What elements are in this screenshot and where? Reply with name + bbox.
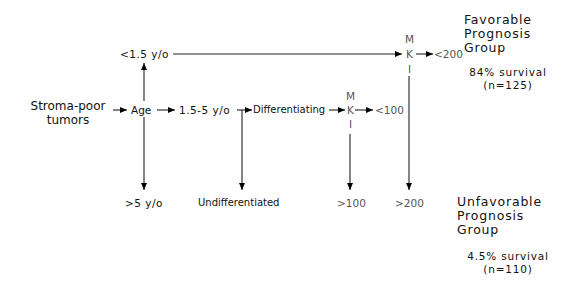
age-mid-node: 1.5-5 y/o bbox=[179, 104, 230, 116]
mki-top-k: K bbox=[406, 48, 413, 60]
mki-top-low: <200 bbox=[434, 48, 463, 60]
root-line1: Stroma-poor bbox=[27, 99, 109, 113]
unfavorable-line3: Group bbox=[457, 223, 542, 237]
mki-mid-high: >100 bbox=[337, 197, 366, 209]
age-young-node: <1.5 y/o bbox=[120, 48, 169, 60]
mki-mid-i: I bbox=[349, 118, 352, 130]
favorable-n: (n=125) bbox=[463, 79, 553, 92]
root-line2: tumors bbox=[27, 113, 109, 127]
favorable-line3: Group bbox=[464, 41, 532, 55]
differentiating-node: Differentiating bbox=[253, 104, 325, 116]
age-node: Age bbox=[131, 104, 151, 116]
unfavorable-n: (n=110) bbox=[461, 263, 555, 276]
mki-top-high: >200 bbox=[395, 197, 424, 209]
unfavorable-group-label: Unfavorable Prognosis Group bbox=[457, 195, 542, 237]
mki-mid-low: <100 bbox=[375, 104, 404, 116]
root-node: Stroma-poor tumors bbox=[27, 99, 109, 127]
unfavorable-survival: 4.5% survival (n=110) bbox=[461, 250, 555, 276]
mki-mid-k: K bbox=[347, 104, 354, 116]
unfavorable-line1: Unfavorable bbox=[457, 195, 542, 209]
age-old-node: >5 y/o bbox=[125, 197, 163, 209]
favorable-survival-rate: 84% survival bbox=[463, 66, 553, 79]
unfavorable-survival-rate: 4.5% survival bbox=[461, 250, 555, 263]
mki-mid-m: M bbox=[346, 90, 355, 102]
undifferentiated-node: Undifferentiated bbox=[198, 197, 279, 209]
favorable-group-label: Favorable Prognosis Group bbox=[464, 13, 532, 55]
favorable-line2: Prognosis bbox=[464, 27, 532, 41]
favorable-survival: 84% survival (n=125) bbox=[463, 66, 553, 92]
unfavorable-line2: Prognosis bbox=[457, 209, 542, 223]
mki-top-m: M bbox=[405, 33, 414, 45]
favorable-line1: Favorable bbox=[464, 13, 532, 27]
mki-top-i: I bbox=[408, 63, 411, 75]
